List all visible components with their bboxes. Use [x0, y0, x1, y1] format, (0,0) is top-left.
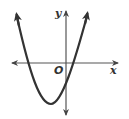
- y-axis-label: y: [54, 7, 63, 20]
- curve-arrow-right-icon: [85, 13, 88, 24]
- origin-label: O: [54, 64, 63, 77]
- curve-arrow-left-icon: [17, 14, 20, 26]
- parabola-curve: [17, 16, 87, 104]
- parabola-graph: y x O: [0, 0, 129, 119]
- x-axis-label: x: [109, 64, 117, 77]
